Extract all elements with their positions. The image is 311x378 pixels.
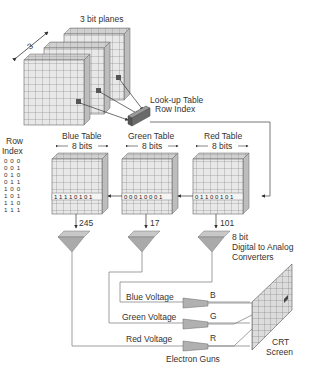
lookup-table-diagram: 3 bit planes 3 <box>0 0 311 378</box>
row-index-value-selected: 1 0 1 <box>4 192 21 199</box>
red-output-value: 101 <box>220 218 234 228</box>
row-index-value: 0 0 1 <box>4 164 21 171</box>
bit-planes-label: 3 bit planes <box>80 14 123 24</box>
red-table-width: 8 bits <box>212 141 232 151</box>
green-row-bits: 0 0 0 1 0 0 0 1 <box>124 194 163 200</box>
row-index-value: 1 1 0 <box>4 199 21 206</box>
dac-label-2: Digital to Analog <box>232 242 294 252</box>
blue-table-title: Blue Table <box>62 131 102 141</box>
row-index-value: 0 0 0 <box>4 157 21 164</box>
row-index-value: 1 1 1 <box>4 206 21 213</box>
row-index: Row Index 0 0 0 0 0 1 0 1 0 0 1 1 1 0 0 … <box>2 136 24 213</box>
row-index-title-2: Index <box>2 146 24 156</box>
crt-label-2: Screen <box>266 347 293 357</box>
row-index-title-1: Row <box>6 136 24 146</box>
blue-table-width: 8 bits <box>72 141 92 151</box>
blue-table: Blue Table 8 bits 1 1 1 1 0 1 0 1 245 <box>52 131 108 228</box>
dac-label-3: Converters <box>232 252 274 262</box>
lookup-label-line2: Row Index <box>155 104 196 114</box>
green-table-width: 8 bits <box>142 141 162 151</box>
red-table-title: Red Table <box>204 131 242 141</box>
red-voltage-label: Red Voltage <box>126 334 173 344</box>
blue-voltage-label: Blue Voltage <box>126 292 174 302</box>
gun-label-g: G <box>210 311 217 321</box>
blue-row-bits: 1 1 1 1 0 1 0 1 <box>54 194 93 200</box>
row-index-value: 0 1 1 <box>4 178 21 185</box>
index-register <box>128 106 150 126</box>
electron-gun-red <box>183 341 208 351</box>
green-output-value: 17 <box>150 218 160 228</box>
red-row-bits: 0 1 1 0 0 1 0 1 <box>195 194 234 200</box>
row-index-value: 0 1 0 <box>4 171 21 178</box>
row-index-value: 1 0 0 <box>4 185 21 192</box>
dac-red <box>198 231 230 252</box>
bit-plane-1 <box>24 54 90 125</box>
electron-gun-blue <box>183 298 208 308</box>
electron-guns-label: Electron Guns <box>166 354 220 364</box>
dac-blue <box>58 231 90 252</box>
dac-label-1: 8 bit <box>232 232 249 242</box>
depth-label: 3 <box>25 41 35 52</box>
red-table: Red Table 8 bits 0 1 1 0 0 1 0 1 101 <box>178 131 249 228</box>
green-voltage-label: Green Voltage <box>122 312 177 322</box>
green-table-title: Green Table <box>128 131 174 141</box>
green-table: Green Table 8 bits 0 0 0 1 0 0 0 1 17 <box>108 131 178 228</box>
dac-green <box>128 231 160 252</box>
blue-output-value: 245 <box>79 218 93 228</box>
bit-planes: 3 bit planes 3 <box>16 14 150 126</box>
gun-label-b: B <box>210 290 216 300</box>
electron-gun-green <box>183 319 208 329</box>
gun-label-r: R <box>210 333 216 343</box>
crt-label-1: CRT <box>272 337 289 347</box>
